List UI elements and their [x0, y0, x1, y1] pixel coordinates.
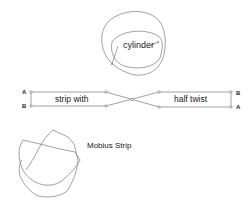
corner-label-left-top: A — [22, 89, 27, 95]
strip-label-left: strip with — [55, 94, 89, 104]
corner-label-right-top: B — [236, 90, 241, 96]
mobius-label: Mobius Strip — [87, 141, 132, 150]
corner-label-right-bottom: A — [236, 104, 241, 110]
diagram-canvas: cylinder A B B A strip with half twist M… — [0, 0, 252, 209]
corner-label-left-bottom: B — [22, 103, 27, 109]
strip-label-right: half twist — [174, 94, 208, 104]
cylinder-label: cylinder — [123, 40, 154, 50]
mobius-figure — [19, 130, 80, 197]
